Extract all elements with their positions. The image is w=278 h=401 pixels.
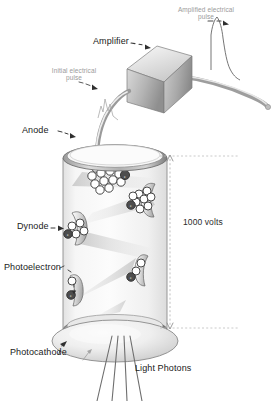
electron-symbol: e: [70, 293, 72, 298]
amplified-pulse-label-line1: Amplified electrical: [150, 6, 262, 13]
amplified-pulse-arrow: [208, 21, 229, 26]
anode-to-amplifier-wire: [96, 91, 129, 152]
anode-label: Anode: [22, 126, 49, 135]
light-photons-label: Light Photons: [135, 364, 191, 373]
amplifier-cube: [127, 46, 192, 113]
voltage-dimension: [160, 155, 238, 329]
initial-pulse-label-line1: Initial electrical: [34, 67, 114, 74]
photocathode-label: Photocathode: [10, 348, 67, 357]
amplified-pulse-label-line2: pulse: [150, 13, 262, 20]
voltage-label: 1000 volts: [183, 218, 223, 227]
photoelectron-label: Photoelectron: [4, 263, 61, 272]
electron-symbol: e: [130, 275, 132, 280]
amplifier-label: Amplifier: [93, 37, 129, 46]
amplifier-arrow: [131, 43, 151, 50]
dynode-arrow: [51, 226, 64, 232]
electron-symbol: e: [130, 203, 132, 208]
photomultiplier-diagram: e e e e: [0, 0, 278, 401]
amplified-pulse-waveform: [211, 17, 240, 80]
initial-pulse-arrow: [79, 82, 98, 90]
dynode-label: Dynode: [17, 222, 49, 231]
initial-pulse-label: Initial electrical pulse: [34, 67, 114, 82]
anode-arrow: [58, 131, 76, 139]
anode-ring: [63, 145, 167, 171]
electron-symbol: e: [67, 232, 69, 237]
amplified-pulse-label: Amplified electrical pulse: [150, 6, 262, 21]
diagram-canvas: e e e e: [0, 0, 278, 401]
initial-pulse-label-line2: pulse: [34, 74, 114, 81]
electron-symbol: e: [124, 174, 126, 179]
photocathode: [52, 315, 178, 363]
